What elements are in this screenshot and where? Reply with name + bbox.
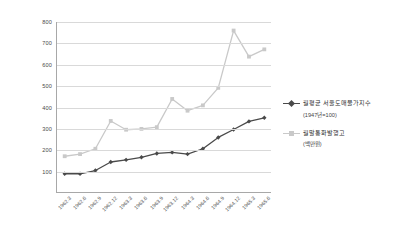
x-tick-label: 1962.12 — [100, 195, 118, 213]
data-point-marker — [124, 158, 128, 162]
x-tick-label: 1964.3 — [179, 195, 194, 210]
chart-container: 800700600500400300200100 1962.31962.6196… — [0, 0, 401, 239]
legend-label-wholesale-price-index: 월평균 서울도매물가지수 — [303, 100, 371, 107]
data-point-marker — [185, 152, 189, 156]
legend-entry-wholesale-price-index: 월평균 서울도매물가지수 (1947년=100) — [283, 100, 398, 119]
legend-entry-currency-issued: 월말통화발행고 (백만원) — [283, 130, 398, 149]
x-tick-label: 1963.12 — [162, 195, 180, 213]
y-tick-label: 600 — [26, 62, 52, 68]
chart-legend: 월평균 서울도매물가지수 (1947년=100) 월말통화발행고 (백만원) — [283, 100, 398, 159]
series-line — [65, 31, 265, 157]
data-point-marker — [232, 29, 236, 33]
legend-sublabel-wholesale-price-index: (1947년=100) — [303, 111, 398, 119]
x-tick-label: 1962.6 — [72, 195, 87, 210]
data-point-marker — [247, 55, 251, 59]
data-point-marker — [262, 47, 266, 51]
legend-label-currency-issued: 월말통화발행고 — [303, 130, 345, 137]
gridline — [57, 22, 271, 23]
x-tick-label: 1963.3 — [118, 195, 133, 210]
plot-area — [56, 22, 271, 193]
y-tick-label: 800 — [26, 19, 52, 25]
series-line — [65, 118, 265, 174]
gridline — [57, 65, 271, 66]
x-tick-label: 1963.6 — [133, 195, 148, 210]
legend-sublabel-currency-issued: (백만원) — [303, 140, 398, 148]
y-tick-label: 300 — [26, 126, 52, 132]
gridline — [57, 172, 271, 173]
y-axis-labels: 800700600500400300200100 — [24, 22, 52, 193]
data-point-marker — [78, 152, 82, 156]
x-tick-label: 1962.3 — [56, 195, 71, 210]
y-tick-label: 100 — [26, 169, 52, 175]
y-tick-label: 400 — [26, 105, 52, 111]
gridline — [57, 150, 271, 151]
y-tick-label: 700 — [26, 40, 52, 46]
x-tick-label: 1964.12 — [223, 195, 241, 213]
data-point-marker — [155, 151, 159, 155]
gridline — [57, 86, 271, 87]
x-tick-label: 1965.3 — [241, 195, 256, 210]
gridline — [57, 108, 271, 109]
data-point-marker — [186, 109, 190, 113]
x-axis-labels: 1962.31962.61962.91962.121963.31963.6196… — [56, 193, 271, 239]
data-point-marker — [170, 97, 174, 101]
y-tick-label: 500 — [26, 83, 52, 89]
x-tick-label: 1965.6 — [256, 195, 271, 210]
legend-marker-light-icon — [283, 130, 300, 137]
data-point-marker — [139, 155, 143, 159]
legend-marker-dark-icon — [283, 100, 300, 107]
data-point-marker — [109, 119, 113, 123]
gridline — [57, 129, 271, 130]
data-point-marker — [262, 116, 266, 120]
gridline — [57, 43, 271, 44]
y-tick-label: 200 — [26, 147, 52, 153]
data-point-marker — [63, 154, 67, 158]
x-tick-label: 1964.6 — [195, 195, 210, 210]
